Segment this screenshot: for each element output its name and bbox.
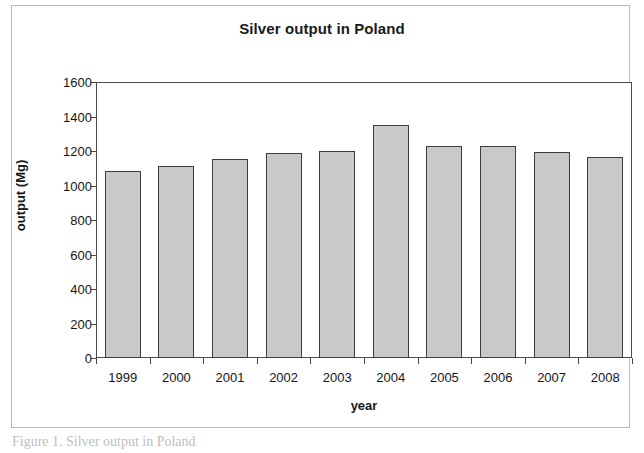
y-axis-tick-label: 200 [46, 316, 92, 331]
y-axis-tick-label: 1400 [46, 109, 92, 124]
x-axis-tick-mark [471, 358, 472, 364]
chart-title: Silver output in Poland [0, 20, 644, 37]
x-axis-tick-mark [525, 358, 526, 364]
y-axis-tick-labels: 16001400120010008006004002000 [42, 0, 92, 453]
bar-2003 [319, 151, 355, 358]
x-axis-tick-mark [96, 358, 97, 364]
y-axis-tick-label: 600 [46, 247, 92, 262]
x-axis-tick-label: 2008 [591, 370, 620, 385]
x-axis-tick-mark [632, 358, 633, 364]
y-axis-tick-label: 400 [46, 282, 92, 297]
bar-2000 [158, 166, 194, 358]
x-axis-tick-mark [257, 358, 258, 364]
x-axis-tick-mark [418, 358, 419, 364]
bar-2004 [373, 125, 409, 358]
y-axis-tick-mark [90, 324, 96, 325]
y-axis-tick-mark [90, 220, 96, 221]
bar-2007 [534, 152, 570, 358]
x-axis-tick-label: 1999 [108, 370, 137, 385]
y-axis-tick-mark [90, 82, 96, 83]
y-axis-tick-label: 1600 [46, 75, 92, 90]
bar-2008 [587, 157, 623, 358]
y-axis-tick-mark [90, 255, 96, 256]
y-axis-tick-label: 1200 [46, 144, 92, 159]
y-axis-tick-mark [90, 151, 96, 152]
x-axis-tick-mark [364, 358, 365, 364]
bar-2005 [426, 146, 462, 358]
x-axis-tick-label: 2006 [484, 370, 513, 385]
y-axis-title: output (Mg) [13, 136, 28, 256]
x-axis-tick-label: 2000 [162, 370, 191, 385]
figure-caption: Figure 1. Silver output in Poland [12, 434, 412, 453]
bar-2002 [266, 153, 302, 358]
x-axis-tick-mark [203, 358, 204, 364]
x-axis-tick-mark [150, 358, 151, 364]
x-axis-tick-mark [310, 358, 311, 364]
y-axis-tick-label: 0 [46, 351, 92, 366]
y-axis-tick-label: 1000 [46, 178, 92, 193]
x-axis-tick-label: 2004 [376, 370, 405, 385]
y-axis-tick-label: 800 [46, 213, 92, 228]
x-axis-title: year [96, 398, 632, 413]
bar-1999 [105, 171, 141, 358]
y-axis-tick-mark [90, 289, 96, 290]
x-axis-tick-label: 2003 [323, 370, 352, 385]
y-axis-tick-mark [90, 186, 96, 187]
y-axis-tick-mark [90, 117, 96, 118]
x-axis-tick-label: 2005 [430, 370, 459, 385]
bar-2001 [212, 159, 248, 358]
x-axis-tick-label: 2001 [216, 370, 245, 385]
x-axis-tick-label: 2002 [269, 370, 298, 385]
x-axis-tick-label: 2007 [537, 370, 566, 385]
bar-2006 [480, 146, 516, 358]
bar-chart-figure: Silver output in Poland output (Mg) 1600… [0, 0, 644, 453]
x-axis-tick-mark [578, 358, 579, 364]
